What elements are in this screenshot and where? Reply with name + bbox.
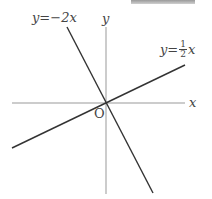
x-axis-label: x	[189, 96, 196, 109]
line-label-neg2x: y=−2x	[32, 11, 77, 24]
plot-area	[0, 0, 212, 199]
label-suffix: x	[188, 42, 195, 57]
label-prefix: y=	[160, 42, 178, 57]
fraction-denominator: 2	[180, 50, 186, 59]
line-y-neg2x	[67, 27, 153, 193]
fraction: 1 2	[179, 40, 187, 59]
y-axis-label: y	[102, 12, 109, 25]
line-label-half-x: y= 1 2 x	[160, 40, 195, 59]
origin-label: O	[94, 107, 105, 120]
coordinate-diagram: y=−2x y x O y= 1 2 x	[0, 0, 212, 199]
